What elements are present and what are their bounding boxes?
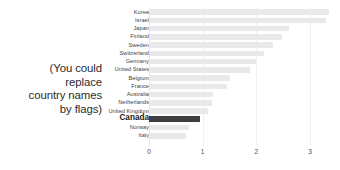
bar-united-kingdom: [149, 108, 208, 113]
bar-belgium: [149, 75, 230, 80]
category-label-finland: Finland: [29, 32, 149, 40]
category-label-korea: Korea: [29, 8, 149, 16]
bar-track: [149, 125, 340, 130]
x-tick-label-2: 2: [255, 147, 259, 157]
bar-finland: [149, 34, 282, 39]
bar-track: [149, 34, 340, 39]
x-tick-label-1: 1: [201, 147, 205, 157]
bar-row: Italy: [0, 132, 340, 140]
bar-track: [149, 9, 340, 14]
bar-track: [149, 67, 340, 72]
category-label-germany: Germany: [29, 57, 149, 65]
bar-norway: [149, 125, 189, 130]
category-label-norway: Norway: [29, 123, 149, 131]
bar-track: [149, 100, 340, 105]
bar-switzerland: [149, 51, 264, 56]
category-label-israel: Israel: [29, 16, 149, 24]
bar-track: [149, 84, 340, 89]
x-tick-label-3: 3: [308, 147, 312, 157]
bar-australia: [149, 92, 213, 97]
bar-japan: [149, 26, 289, 31]
bar-chart: (You could replace country names by flag…: [0, 0, 340, 170]
bar-canada: [149, 116, 200, 123]
category-label-italy: Italy: [29, 131, 149, 139]
category-label-canada: Canada: [29, 114, 149, 122]
bar-korea: [149, 9, 329, 14]
category-label-france: France: [29, 82, 149, 90]
bar-track: [149, 51, 340, 56]
bar-track: [149, 108, 340, 113]
category-label-switzerland: Switzerland: [29, 49, 149, 57]
bar-france: [149, 84, 227, 89]
bar-track: [149, 75, 340, 80]
bar-track: [149, 18, 340, 23]
bar-track: [149, 59, 340, 64]
bar-israel: [149, 18, 326, 23]
category-label-sweden: Sweden: [29, 41, 149, 49]
bar-rows: KoreaIsraelJapanFinlandSwedenSwitzerland…: [0, 8, 340, 140]
x-tick-label-0: 0: [147, 147, 151, 157]
bar-track: [149, 116, 340, 123]
category-label-australia: Australia: [29, 90, 149, 98]
category-label-belgium: Belgium: [29, 74, 149, 82]
bar-track: [149, 26, 340, 31]
bar-track: [149, 133, 340, 138]
category-label-japan: Japan: [29, 24, 149, 32]
bar-italy: [149, 133, 186, 138]
bar-track: [149, 92, 340, 97]
category-label-netherlands: Netherlands: [29, 98, 149, 106]
bar-united-states: [149, 67, 250, 72]
bar-track: [149, 42, 340, 47]
category-label-united-states: United States: [29, 65, 149, 73]
bar-sweden: [149, 42, 273, 47]
bar-netherlands: [149, 100, 212, 105]
x-axis: 0123: [0, 147, 340, 161]
plot-area: KoreaIsraelJapanFinlandSwedenSwitzerland…: [0, 0, 340, 170]
bar-germany: [149, 59, 256, 64]
